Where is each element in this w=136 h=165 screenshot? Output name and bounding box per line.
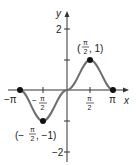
y-tick-label-neg2: −2 bbox=[52, 147, 64, 158]
y-axis-label: y bbox=[55, 8, 62, 19]
point-max bbox=[87, 57, 93, 63]
x-tick-label-neg-pi-half-num: π bbox=[40, 95, 45, 102]
point-pi bbox=[110, 87, 116, 93]
x-tick-label-pi-half-num: π bbox=[87, 95, 92, 102]
sine-graph: y x 2 −2 −π − π 2 π 2 π ( π 2 , 1) (− π … bbox=[0, 0, 136, 165]
x-tick-label-neg-pi-half-minus: − bbox=[32, 96, 37, 105]
max-label-num: π bbox=[83, 39, 88, 46]
min-label-open: (− bbox=[15, 130, 24, 141]
min-label-den: 2 bbox=[31, 135, 35, 142]
max-label-den: 2 bbox=[84, 48, 88, 55]
x-axis-label: x bbox=[123, 95, 130, 106]
x-tick-label-pi-half-den: 2 bbox=[88, 104, 92, 111]
x-tick-label-neg-pi: −π bbox=[4, 94, 17, 105]
max-label-open: ( bbox=[77, 42, 81, 54]
point-neg-pi bbox=[17, 87, 23, 93]
point-min bbox=[40, 118, 46, 124]
y-tick-label-2: 2 bbox=[56, 24, 62, 35]
x-tick-label-neg-pi-half-den: 2 bbox=[41, 104, 45, 111]
y-axis-arrow-icon bbox=[65, 11, 70, 17]
min-label-close: , −1) bbox=[36, 130, 56, 141]
min-label-num: π bbox=[30, 126, 35, 133]
max-label-close: , 1) bbox=[89, 43, 103, 54]
x-axis-arrow-icon bbox=[123, 88, 129, 93]
x-tick-label-pi: π bbox=[109, 94, 116, 105]
